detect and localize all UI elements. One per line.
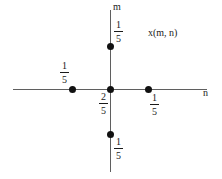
value-label-bottom: 1 5 (114, 136, 123, 161)
fraction-bar (150, 104, 159, 105)
fraction-bar (114, 31, 123, 32)
value-label-origin-numerator: 2 (99, 91, 108, 102)
value-label-origin: 2 5 (99, 91, 108, 116)
fraction-bar (60, 72, 69, 73)
value-label-left-denominator: 5 (60, 74, 69, 85)
fraction-bar (99, 103, 108, 104)
value-label-origin-denominator: 5 (99, 105, 108, 116)
axis-label-n: n (203, 88, 208, 98)
function-label: x(m, n) (148, 27, 177, 38)
value-label-top-denominator: 5 (114, 33, 123, 44)
value-label-left-numerator: 1 (60, 60, 69, 71)
value-label-top: 1 5 (114, 19, 123, 44)
fraction-bar (114, 148, 123, 149)
value-label-left: 1 5 (60, 60, 69, 85)
value-label-bottom-denominator: 5 (114, 150, 123, 161)
value-label-bottom-numerator: 1 (114, 136, 123, 147)
signal-plot-figure: m n x(m, n) 1 5 1 5 2 5 1 5 1 5 (0, 0, 222, 179)
data-point-top (107, 43, 114, 50)
value-label-right-numerator: 1 (150, 92, 159, 103)
data-point-left (69, 86, 76, 93)
data-point-origin (107, 86, 114, 93)
value-label-right: 1 5 (150, 92, 159, 117)
value-label-top-numerator: 1 (114, 19, 123, 30)
axis-label-m: m (113, 2, 121, 12)
value-label-right-denominator: 5 (150, 106, 159, 117)
data-point-bottom (107, 131, 114, 138)
